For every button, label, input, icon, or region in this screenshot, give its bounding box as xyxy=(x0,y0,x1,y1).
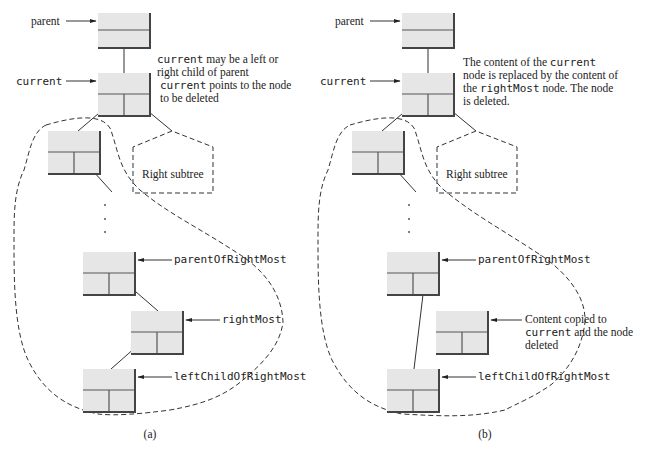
panel-b-caption: (b) xyxy=(478,428,492,441)
content-copied-line2: current and the node xyxy=(525,326,633,339)
note-current-child: current may be a left or xyxy=(157,53,279,66)
parent-of-right-most-node-b xyxy=(387,252,440,295)
note-replaced-line4: is deleted. xyxy=(463,95,510,107)
note-current-child-line2: right child of parent xyxy=(157,66,249,79)
current-pointer-label-b: current xyxy=(320,75,366,88)
left-child-of-right-most-label-b: leftChildOfRightMost xyxy=(478,370,610,383)
left-child-node-b xyxy=(352,131,405,174)
left-child-node xyxy=(48,131,101,174)
right-most-label: rightMost xyxy=(222,313,282,326)
content-copied-line3: deleted xyxy=(525,339,558,351)
note-replaced-line2: node is replaced by the content of xyxy=(463,69,618,82)
right-most-node-b xyxy=(436,311,489,354)
parent-pointer-label: parent xyxy=(31,15,61,28)
right-subtree-outline-b xyxy=(437,131,517,193)
current-node xyxy=(98,73,151,116)
current-node-b xyxy=(402,73,455,116)
parent-of-right-most-node xyxy=(83,252,136,295)
panel-a: parent current current may be a left or … xyxy=(14,13,306,441)
right-most-node xyxy=(131,311,184,354)
parent-of-right-most-label-b: parentOfRightMost xyxy=(478,253,591,266)
left-child-of-right-most-node xyxy=(83,369,136,412)
right-subtree-label-b: Right subtree xyxy=(446,168,508,181)
current-pointer-label: current xyxy=(16,75,62,88)
note-replaced-line1: The content of the current xyxy=(463,56,596,69)
panel-a-caption: (a) xyxy=(144,428,157,441)
left-child-of-right-most-node-b xyxy=(387,369,440,412)
parent-of-right-most-label: parentOfRightMost xyxy=(174,253,287,266)
parent-node xyxy=(98,13,151,48)
note-current-points: current points to the node xyxy=(160,79,291,92)
parent-node-b xyxy=(402,13,455,48)
parent-pointer-label-b: parent xyxy=(335,15,365,28)
bst-delete-diagram: parent current current may be a left or … xyxy=(0,0,645,452)
note-current-points-line2: to be deleted xyxy=(160,92,219,104)
panel-b: parent current The content of the curren… xyxy=(318,13,633,441)
left-child-of-right-most-label: leftChildOfRightMost xyxy=(174,370,306,383)
right-subtree-outline xyxy=(133,131,213,193)
right-subtree-label: Right subtree xyxy=(142,168,204,181)
note-replaced-line3: the rightMost node. The node xyxy=(463,82,613,95)
content-copied-line1: Content copied to xyxy=(525,313,607,326)
